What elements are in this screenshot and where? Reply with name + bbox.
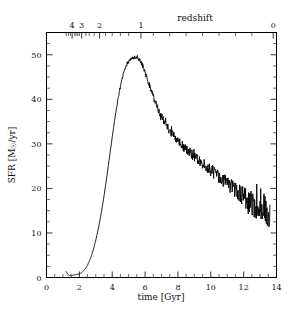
x-axis-title: time [Gyr]	[138, 292, 185, 302]
tick-label: 0	[36, 274, 41, 283]
tick-label: 3	[79, 21, 84, 30]
tick-label: 8	[175, 283, 180, 292]
sfr-history-figure: 43210 redshift 02468101214 time [Gyr] 01…	[0, 0, 297, 309]
tick-label: 6	[143, 283, 148, 292]
tick-label: 12	[239, 283, 249, 292]
tick-label: 14	[271, 283, 281, 292]
top-axis-title: redshift	[177, 13, 213, 23]
tick-label: 4	[110, 283, 115, 292]
tick-label: 0	[271, 21, 276, 30]
plot-svg: 43210 redshift 02468101214 time [Gyr] 01…	[0, 0, 297, 309]
tick-label: 2	[77, 283, 82, 292]
figure-background	[0, 0, 297, 309]
tick-label: 1	[138, 21, 143, 30]
tick-label: 0	[44, 283, 49, 292]
tick-label: 2	[97, 21, 102, 30]
tick-label: 20	[31, 184, 41, 193]
tick-label: 40	[31, 95, 41, 104]
tick-label: 10	[206, 283, 216, 292]
tick-label: 30	[31, 140, 41, 149]
tick-label: 50	[31, 51, 41, 60]
tick-label: 10	[31, 229, 41, 238]
tick-label: 4	[70, 21, 75, 30]
y-axis-title: SFR [M☉/yr]	[7, 127, 18, 184]
